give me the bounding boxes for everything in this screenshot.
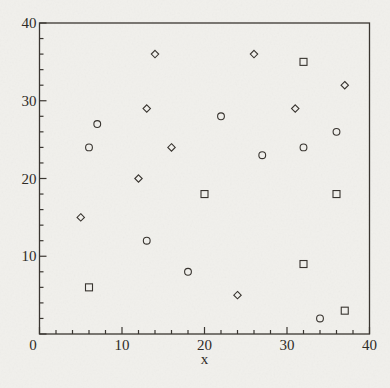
y-tick-label: 30 <box>22 93 37 109</box>
scatter-plot: 10203040102030400x <box>0 0 390 388</box>
x-axis-label: x <box>201 351 209 367</box>
scatter-figure: 10203040102030400x <box>0 0 390 388</box>
paper-grain-texture <box>0 0 390 388</box>
origin-tick-label: 0 <box>29 337 37 353</box>
x-tick-label: 10 <box>115 337 130 353</box>
y-tick-label: 20 <box>22 171 37 187</box>
y-tick-label: 40 <box>22 15 37 31</box>
x-tick-label: 40 <box>362 337 377 353</box>
x-tick-label: 30 <box>280 337 295 353</box>
y-tick-label: 10 <box>22 248 37 264</box>
